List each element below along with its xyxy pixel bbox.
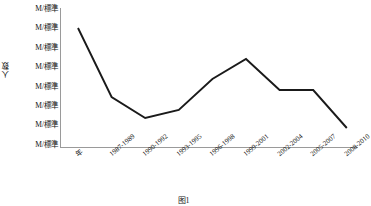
- x-tick-label-0: 年: [74, 148, 85, 159]
- y-tick-label-2: M/標準: [16, 43, 58, 52]
- y-tick-label-4: M/標準: [16, 82, 58, 91]
- line-series-svg: [60, 8, 358, 148]
- y-tick-label-1: M/標準: [16, 23, 58, 32]
- y-tick-label-0: M/標準: [16, 4, 58, 13]
- y-tick-label-5: M/標準: [16, 101, 58, 110]
- x-axis-tick-labels: 年1987-19891990-19921993-19951996-1998199…: [0, 148, 367, 198]
- y-tick-label-6: M/標準: [16, 120, 58, 129]
- figure-caption: 图1: [0, 196, 367, 206]
- y-tick-label-3: M/標準: [16, 62, 58, 71]
- y-axis-tick-labels: M/標準M/標準M/標準M/標準M/標準M/標準M/標準M/標準: [16, 0, 58, 152]
- plot-area: [60, 8, 358, 148]
- y-axis-title: 人数: [2, 62, 16, 78]
- line-series-path: [78, 28, 347, 128]
